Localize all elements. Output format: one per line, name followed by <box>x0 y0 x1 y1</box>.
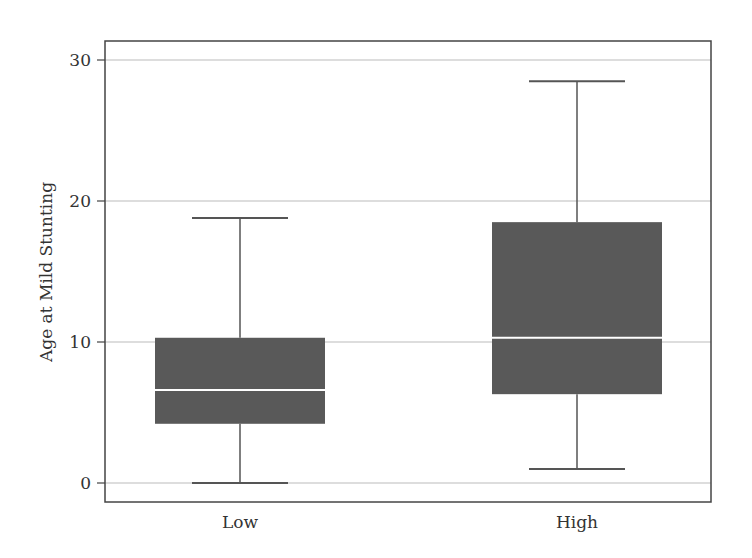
x-axis: LowHigh <box>222 512 598 532</box>
box-high <box>492 81 662 469</box>
y-axis-title: Age at Mild Stunting <box>36 182 56 363</box>
x-tick-label: Low <box>222 512 259 532</box>
boxes <box>155 81 662 483</box>
y-axis: 0102030 <box>69 50 105 493</box>
y-tick-label: 10 <box>69 332 91 352</box>
y-tick-label: 0 <box>80 473 91 493</box>
y-tick-label: 20 <box>69 191 91 211</box>
x-tick-label: High <box>556 512 598 532</box>
box-plot-chart: 0102030 LowHigh Age at Mild Stunting <box>0 0 752 558</box>
iqr-box <box>155 338 325 424</box>
box-low <box>155 218 325 483</box>
y-tick-label: 30 <box>69 50 91 70</box>
iqr-box <box>492 222 662 394</box>
